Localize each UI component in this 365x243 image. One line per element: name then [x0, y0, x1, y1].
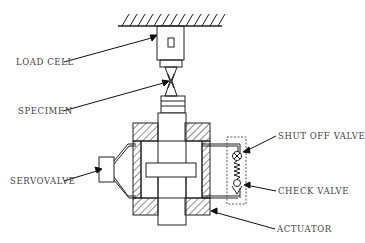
label-load-cell: LOAD CELL — [16, 57, 74, 67]
spring-icon — [234, 161, 240, 179]
load-cell — [157, 26, 184, 67]
shut-off-valve-icon — [233, 152, 242, 161]
label-specimen: SPECIMEN — [18, 106, 73, 116]
label-servovalve: SERVOVALVE — [10, 176, 76, 186]
servovalve — [99, 144, 136, 198]
label-shut-off-valve: SHUT OFF VALVE — [278, 131, 365, 141]
label-actuator: ACTUATOR — [277, 224, 332, 234]
piston-grip — [161, 96, 185, 113]
fixed-support — [118, 14, 225, 26]
label-check-valve: CHECK VALVE — [278, 186, 349, 196]
piston-head — [146, 163, 196, 177]
